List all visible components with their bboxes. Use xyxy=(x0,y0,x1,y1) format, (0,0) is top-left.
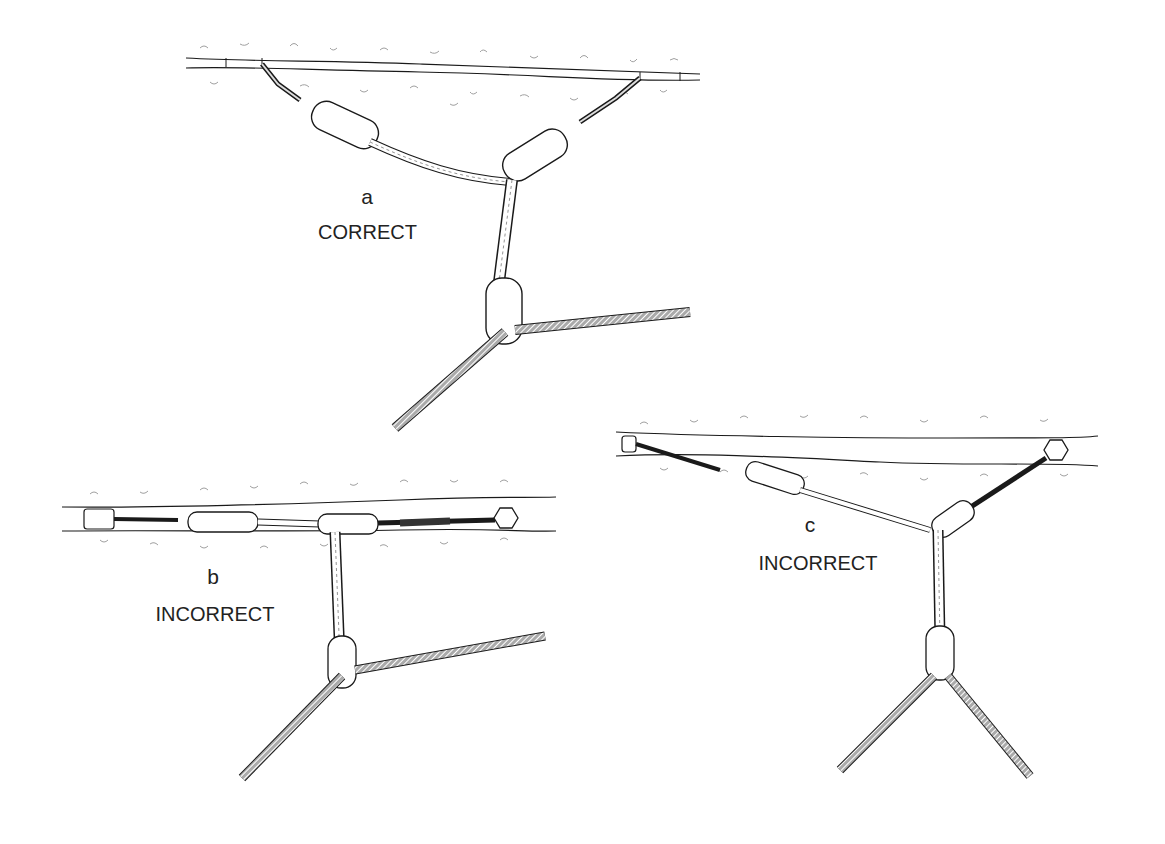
rock-texture xyxy=(90,480,508,548)
carabiner-icon xyxy=(497,124,572,187)
panel-a-letter: a xyxy=(352,186,382,207)
panel-b-letter: b xyxy=(198,566,228,587)
panel-c-drawing xyxy=(616,415,1098,776)
carabiner-icon xyxy=(188,512,258,532)
panel-c-letter: c xyxy=(795,514,825,535)
hex-nut-icon xyxy=(494,508,518,528)
figure-canvas: a CORRECT b INCORRECT c INCORRECT xyxy=(0,0,1165,844)
panel-b-verdict: INCORRECT xyxy=(135,604,295,624)
anchor-diagrams xyxy=(0,0,1165,844)
nut-icon xyxy=(84,509,114,529)
panel-a-drawing xyxy=(186,43,700,428)
rock-crack-icon xyxy=(186,58,700,81)
panel-b-drawing xyxy=(62,480,556,778)
nut-icon xyxy=(622,436,636,452)
panel-a-verdict: CORRECT xyxy=(300,222,435,242)
carabiner-icon xyxy=(926,626,954,680)
carabiner-icon xyxy=(743,459,806,497)
rock-texture xyxy=(640,415,1068,480)
panel-c-verdict: INCORRECT xyxy=(738,553,898,573)
carabiner-icon xyxy=(318,514,378,534)
hex-nut-icon xyxy=(1044,440,1068,460)
